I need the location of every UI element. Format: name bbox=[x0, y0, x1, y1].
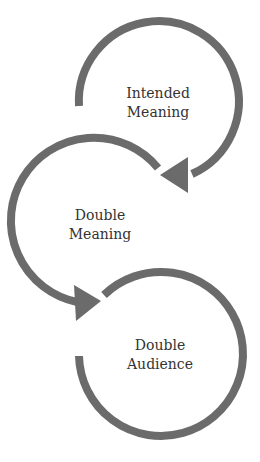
node-intended-meaning: Intended Meaning bbox=[108, 84, 208, 122]
node-label-line2: Meaning bbox=[108, 103, 208, 122]
node-label-line2: Audience bbox=[110, 355, 210, 374]
node-double-audience: Double Audience bbox=[110, 336, 210, 374]
node-label-line1: Double bbox=[110, 336, 210, 355]
node-label-line1: Double bbox=[50, 206, 150, 225]
arrowhead-1-icon bbox=[160, 157, 188, 193]
node-double-meaning: Double Meaning bbox=[50, 206, 150, 244]
arrowhead-2-icon bbox=[74, 285, 101, 321]
node-label-line2: Meaning bbox=[50, 225, 150, 244]
node-label-line1: Intended bbox=[108, 84, 208, 103]
